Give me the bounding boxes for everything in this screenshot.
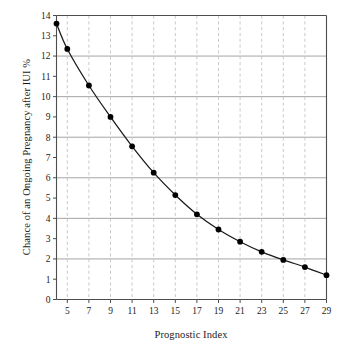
data-point-marker <box>259 249 265 255</box>
x-tick-label: 9 <box>108 306 113 316</box>
x-tick-label: 27 <box>300 306 310 316</box>
prognostic-index-line-chart: 01234567891011121314 5791113151719212325… <box>0 0 349 351</box>
x-tick-label: 19 <box>214 306 224 316</box>
y-tick-label: 2 <box>46 254 51 264</box>
data-point-marker <box>108 114 114 120</box>
data-point-marker <box>237 239 243 245</box>
x-tick-label: 21 <box>235 306 245 316</box>
data-point-marker <box>302 264 308 270</box>
x-tick-label: 7 <box>87 306 92 316</box>
y-tick-label: 9 <box>46 112 51 122</box>
y-tick-label: 10 <box>41 92 51 102</box>
y-axis-title: Chance of an Ongoing Pregnancy after IUI… <box>21 59 32 255</box>
x-tick-label: 23 <box>257 306 267 316</box>
y-tick-label: 3 <box>46 234 51 244</box>
data-point-marker <box>194 211 200 217</box>
y-tick-label: 14 <box>41 11 51 21</box>
y-tick-label: 0 <box>46 295 51 305</box>
chart-background <box>0 0 349 351</box>
y-tick-label: 7 <box>46 153 51 163</box>
data-point-marker <box>151 170 157 176</box>
y-tick-label: 1 <box>46 275 51 285</box>
x-tick-label: 29 <box>322 306 332 316</box>
x-tick-label: 11 <box>128 306 137 316</box>
y-tick-label: 5 <box>46 193 51 203</box>
x-tick-label: 17 <box>192 306 202 316</box>
data-point-marker <box>64 46 70 52</box>
x-tick-label: 13 <box>149 306 159 316</box>
y-tick-label: 13 <box>41 31 51 41</box>
y-tick-label: 4 <box>46 214 51 224</box>
data-point-marker <box>86 83 92 89</box>
x-tick-label: 25 <box>279 306 289 316</box>
x-tick-label: 5 <box>65 306 70 316</box>
data-point-marker <box>129 143 135 149</box>
data-point-marker <box>216 227 222 233</box>
data-point-marker <box>54 21 60 27</box>
y-tick-label: 6 <box>46 173 51 183</box>
x-tick-label: 15 <box>171 306 181 316</box>
y-tick-label: 12 <box>41 51 51 61</box>
y-tick-label: 8 <box>46 133 51 143</box>
data-point-marker <box>172 192 178 198</box>
y-tick-label: 11 <box>41 72 50 82</box>
data-point-marker <box>280 257 286 263</box>
data-point-marker <box>324 272 330 278</box>
chart-figure: 01234567891011121314 5791113151719212325… <box>0 0 349 351</box>
x-axis-title: Prognostic Index <box>154 329 228 340</box>
